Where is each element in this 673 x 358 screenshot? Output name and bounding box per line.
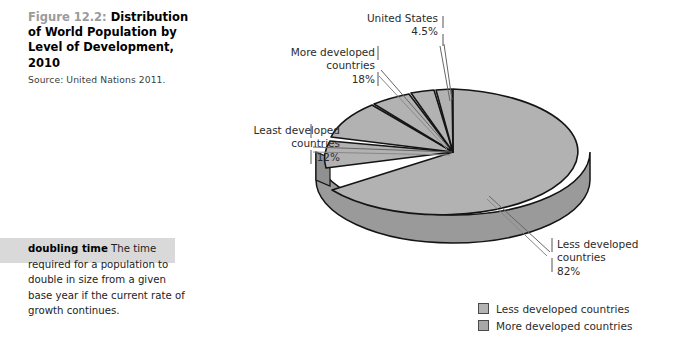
legend-label-less-developed: Less developed countries [496,303,629,315]
label-more-developed: More developed countries 18% [255,46,375,86]
label-least-developed-value: 12% [200,151,340,164]
label-least-developed-name-2: countries [200,137,340,150]
legend-item-less-developed[interactable]: Less developed countries [478,300,632,317]
chart-legend: Less developed countries More developed … [478,300,632,334]
label-less-developed-name-2: countries [557,251,673,264]
legend-swatch-less-developed [478,303,489,314]
legend-swatch-more-developed [478,320,489,331]
label-less-developed-value: 82% [557,265,673,278]
label-united-states-value: 4.5% [338,25,438,38]
legend-label-more-developed: More developed countries [496,320,632,332]
label-least-developed-name-1: Least developed [200,124,340,137]
label-more-developed-name-2: countries [255,59,375,72]
label-more-developed-value: 18% [255,73,375,86]
label-less-developed-name-1: Less developed [557,238,673,251]
label-less-developed: Less developed countries 82% [557,238,673,278]
label-more-developed-name-1: More developed [255,46,375,59]
label-united-states: United States 4.5% [338,12,438,39]
label-least-developed: Least developed countries 12% [200,124,340,164]
legend-item-more-developed[interactable]: More developed countries [478,317,632,334]
label-united-states-name: United States [338,12,438,25]
